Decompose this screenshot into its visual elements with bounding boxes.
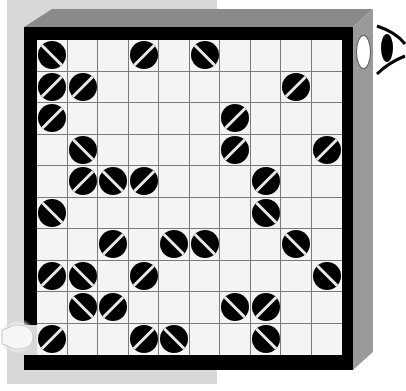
grid-cell[interactable]: [190, 292, 221, 324]
grid-cell[interactable]: [281, 229, 312, 261]
mirror-forward-icon[interactable]: [221, 136, 249, 164]
grid-cell[interactable]: [312, 292, 343, 324]
grid-cell[interactable]: [68, 292, 99, 324]
grid-cell[interactable]: [281, 40, 312, 72]
mirror-forward-icon[interactable]: [38, 262, 66, 290]
grid-cell[interactable]: [98, 324, 129, 356]
grid-cell[interactable]: [190, 72, 221, 104]
grid-cell[interactable]: [129, 198, 160, 230]
grid-cell[interactable]: [159, 261, 190, 293]
grid-cell[interactable]: [159, 324, 190, 356]
mirror-forward-icon[interactable]: [130, 41, 158, 69]
grid-cell[interactable]: [220, 72, 251, 104]
grid-cell[interactable]: [251, 198, 282, 230]
grid-cell[interactable]: [220, 229, 251, 261]
grid-cell[interactable]: [220, 324, 251, 356]
grid-cell[interactable]: [251, 103, 282, 135]
mirror-backward-icon[interactable]: [221, 293, 249, 321]
grid-cell[interactable]: [68, 324, 99, 356]
grid-cell[interactable]: [98, 229, 129, 261]
grid-cell[interactable]: [220, 135, 251, 167]
grid-cell[interactable]: [312, 103, 343, 135]
grid-cell[interactable]: [281, 135, 312, 167]
mirror-backward-icon[interactable]: [282, 230, 310, 258]
mirror-forward-icon[interactable]: [130, 325, 158, 353]
grid-cell[interactable]: [159, 229, 190, 261]
grid-cell[interactable]: [37, 229, 68, 261]
grid-cell[interactable]: [281, 292, 312, 324]
grid-cell[interactable]: [68, 72, 99, 104]
grid-cell[interactable]: [312, 261, 343, 293]
grid-cell[interactable]: [251, 72, 282, 104]
grid-cell[interactable]: [251, 324, 282, 356]
grid-cell[interactable]: [312, 40, 343, 72]
grid-cell[interactable]: [37, 166, 68, 198]
grid-cell[interactable]: [281, 198, 312, 230]
grid-cell[interactable]: [98, 72, 129, 104]
mirror-forward-icon[interactable]: [282, 73, 310, 101]
grid-cell[interactable]: [129, 261, 160, 293]
grid-cell[interactable]: [281, 103, 312, 135]
grid-cell[interactable]: [159, 166, 190, 198]
grid-cell[interactable]: [312, 229, 343, 261]
grid-cell[interactable]: [37, 40, 68, 72]
mirror-backward-icon[interactable]: [252, 325, 280, 353]
grid-cell[interactable]: [129, 229, 160, 261]
grid-cell[interactable]: [37, 103, 68, 135]
grid-cell[interactable]: [312, 166, 343, 198]
mirror-backward-icon[interactable]: [160, 230, 188, 258]
mirror-forward-icon[interactable]: [221, 104, 249, 132]
grid-cell[interactable]: [251, 292, 282, 324]
grid-cell[interactable]: [251, 261, 282, 293]
grid-cell[interactable]: [159, 135, 190, 167]
grid-cell[interactable]: [190, 135, 221, 167]
mirror-forward-icon[interactable]: [313, 136, 341, 164]
grid-cell[interactable]: [68, 261, 99, 293]
mirror-forward-icon[interactable]: [99, 230, 127, 258]
mirror-backward-icon[interactable]: [69, 262, 97, 290]
mirror-backward-icon[interactable]: [252, 199, 280, 227]
grid-cell[interactable]: [37, 292, 68, 324]
grid-cell[interactable]: [190, 261, 221, 293]
grid-cell[interactable]: [190, 166, 221, 198]
grid-cell[interactable]: [98, 103, 129, 135]
grid-cell[interactable]: [98, 135, 129, 167]
grid-cell[interactable]: [37, 198, 68, 230]
grid-cell[interactable]: [129, 103, 160, 135]
grid-cell[interactable]: [98, 166, 129, 198]
mirror-forward-icon[interactable]: [252, 293, 280, 321]
grid-cell[interactable]: [281, 324, 312, 356]
mirror-backward-icon[interactable]: [313, 262, 341, 290]
grid-cell[interactable]: [220, 292, 251, 324]
grid-cell[interactable]: [220, 103, 251, 135]
grid-cell[interactable]: [68, 103, 99, 135]
mirror-forward-icon[interactable]: [38, 325, 66, 353]
mirror-backward-icon[interactable]: [191, 41, 219, 69]
grid-cell[interactable]: [129, 135, 160, 167]
mirror-forward-icon[interactable]: [99, 293, 127, 321]
grid-cell[interactable]: [37, 72, 68, 104]
grid-cell[interactable]: [159, 198, 190, 230]
grid-cell[interactable]: [129, 324, 160, 356]
grid-cell[interactable]: [98, 198, 129, 230]
grid-cell[interactable]: [159, 40, 190, 72]
grid-cell[interactable]: [251, 135, 282, 167]
mirror-forward-icon[interactable]: [130, 167, 158, 195]
grid-cell[interactable]: [68, 198, 99, 230]
mirror-backward-icon[interactable]: [38, 199, 66, 227]
grid-cell[interactable]: [37, 261, 68, 293]
grid-cell[interactable]: [98, 292, 129, 324]
grid-cell[interactable]: [129, 292, 160, 324]
grid-cell[interactable]: [312, 198, 343, 230]
grid-cell[interactable]: [312, 324, 343, 356]
grid-cell[interactable]: [190, 324, 221, 356]
mirror-forward-icon[interactable]: [130, 262, 158, 290]
grid-cell[interactable]: [190, 40, 221, 72]
grid-cell[interactable]: [68, 135, 99, 167]
grid-cell[interactable]: [312, 135, 343, 167]
grid-cell[interactable]: [129, 166, 160, 198]
grid-cell[interactable]: [190, 103, 221, 135]
grid-cell[interactable]: [281, 261, 312, 293]
grid-cell[interactable]: [159, 103, 190, 135]
grid-cell[interactable]: [159, 292, 190, 324]
